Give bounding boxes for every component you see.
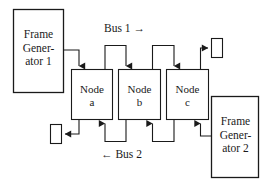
bus1-link-fg1-to-node-a: [64, 50, 80, 66]
bus2-link-fg2-to-node-c: [201, 124, 212, 137]
bus1-link-node-a-to-node-b: [105, 46, 126, 70]
bus-2-label: ← Bus 2: [101, 148, 142, 160]
frame-generator-2-box: [212, 97, 259, 178]
bus2-link-node-c-to-node-b: [153, 120, 175, 142]
frame-generator-1-box: [14, 10, 64, 93]
terminator-bottom-left-box: [51, 125, 62, 144]
diagram-canvas: Frame Gener- ator 1 Frame Gener- ator 2 …: [0, 0, 269, 184]
node-c-box: [167, 70, 209, 120]
bus1-link-node-b-to-node-c: [153, 46, 175, 70]
node-a-box: [72, 70, 113, 120]
bus2-link-node-b-to-node-a: [105, 120, 126, 142]
bus-1-label: Bus 1 →: [104, 22, 145, 34]
node-b-box: [119, 70, 161, 120]
bus1-link-node-c-to-terminator: [201, 48, 209, 70]
terminator-top-right-box: [212, 39, 223, 58]
bus2-link-node-a-to-terminator: [65, 120, 79, 135]
